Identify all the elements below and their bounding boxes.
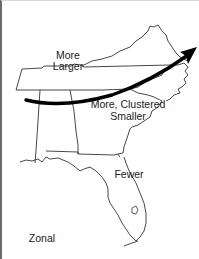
- georgia-coast: [118, 129, 130, 154]
- storm-track-arrow: [26, 55, 188, 104]
- map-figure: More Larger More, Clustered Smaller Fewe…: [0, 0, 199, 259]
- label-more-clustered: More, Clustered: [91, 98, 166, 110]
- virginia-outline: [82, 25, 188, 66]
- lake-okeechobee: [132, 206, 138, 214]
- tennessee-outline: [16, 64, 170, 90]
- florida-keys: [124, 241, 138, 246]
- label-zonal: Zonal: [29, 232, 55, 244]
- label-fewer: Fewer: [114, 168, 143, 180]
- florida-north-border: [46, 151, 120, 157]
- arrow-head-icon: [180, 47, 197, 64]
- alabama-georgia-border: [70, 90, 78, 154]
- label-smaller: Smaller: [110, 110, 146, 122]
- label-larger: Larger: [53, 60, 83, 72]
- southeast-map: [2, 1, 199, 259]
